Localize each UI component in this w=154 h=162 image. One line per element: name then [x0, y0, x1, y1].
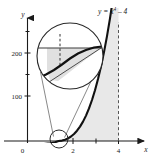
- x-axis-label: x: [143, 145, 148, 154]
- x-tick-label-4: 4: [117, 147, 121, 155]
- y-tick-label-100: 100: [12, 93, 23, 101]
- origin-label: 0: [21, 147, 25, 155]
- curve-equation-tail: – 4: [116, 7, 128, 16]
- y-axis-label: y: [20, 10, 25, 19]
- figure-graph-x4-minus-4: 200 100 2 4 0 x y y = x4 – 4: [0, 0, 154, 162]
- curve-equation-label: y = x4 – 4: [97, 6, 128, 16]
- magnifier-inset: [37, 23, 103, 100]
- x-tick-label-2: 2: [71, 147, 75, 155]
- y-tick-label-200: 200: [12, 50, 23, 58]
- curve-equation-main: y = x: [97, 7, 114, 16]
